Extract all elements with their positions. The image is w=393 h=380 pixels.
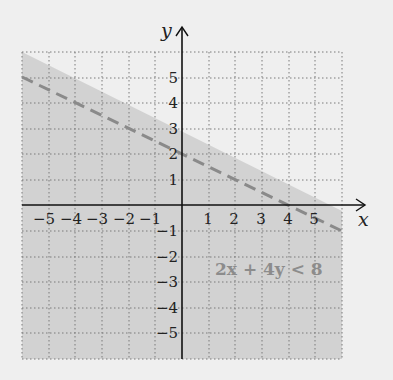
svg-text:2: 2: [168, 145, 178, 163]
svg-text:4: 4: [168, 94, 178, 112]
svg-text:−4: −4: [60, 210, 82, 228]
svg-text:−3: −3: [86, 210, 108, 228]
svg-text:4: 4: [283, 210, 293, 228]
inequality-graph: x y −5 −4 −3 −2 −1 1 2 3 4 5 5 4 3 2 1 −…: [0, 0, 393, 380]
svg-text:−2: −2: [113, 210, 135, 228]
svg-text:1: 1: [168, 171, 178, 189]
svg-text:2: 2: [229, 210, 239, 228]
svg-text:1: 1: [203, 210, 213, 228]
svg-text:3: 3: [256, 210, 266, 228]
y-axis-label: y: [160, 19, 172, 41]
x-axis-label: x: [358, 208, 369, 230]
svg-text:−2: −2: [156, 248, 178, 266]
svg-text:3: 3: [168, 120, 178, 138]
svg-text:−3: −3: [156, 273, 178, 291]
svg-text:−1: −1: [156, 222, 178, 240]
svg-text:−5: −5: [156, 324, 178, 342]
inequality-label: 2x + 4y < 8: [215, 259, 323, 279]
svg-text:5: 5: [168, 69, 178, 87]
svg-text:−5: −5: [33, 210, 55, 228]
svg-text:5: 5: [309, 210, 319, 228]
svg-text:−4: −4: [156, 299, 178, 317]
